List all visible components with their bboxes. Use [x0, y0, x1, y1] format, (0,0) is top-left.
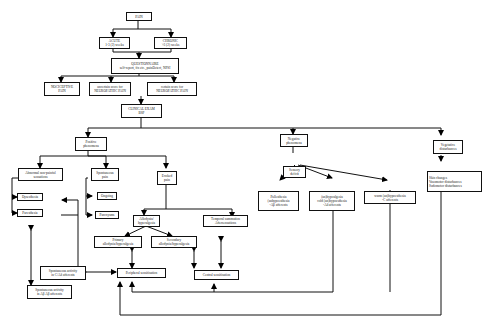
node-pallesthesia: Pallesthesia (anhypoesthesia -Aβ afferen…: [258, 191, 299, 211]
node-negative-phenomena: Negative phenomena: [280, 134, 308, 147]
node-clinical-exam: CLINICAL EXAM BSP: [121, 104, 162, 118]
node-pain: PAIN: [126, 12, 152, 21]
node-paroxysms: Paroxysms: [95, 211, 119, 219]
node-positive-phenomena: Positive phenomena: [75, 137, 107, 151]
node-skin-changes: Skin changes Vasomotor disturbances Sudo…: [427, 171, 482, 192]
node-evoked-pain: Evoked pain: [157, 171, 177, 185]
node-questionnaire: QUESTIONNAIRE self-report, fix etc., pai…: [111, 58, 179, 74]
node-neuropathic-uncertain: uncertain score for NEUROPATHIC PAIN: [89, 82, 131, 96]
flowchart-canvas: PAIN ACUTE 1-3 (2) weeks CHRONIC >3 (2) …: [0, 0, 490, 321]
node-secondary-allodynia: Secondary allodynia/hyperalgesia: [151, 236, 197, 248]
node-acute: ACUTE 1-3 (2) weeks: [99, 37, 130, 49]
node-nociceptive: NOCICEPTIVE PAIN: [44, 82, 80, 96]
node-chronic: CHRONIC >3 (2) weeks: [154, 37, 187, 49]
node-spont-activity-ab: Spontaneous activity in Aβ Aβ afferents: [27, 285, 72, 299]
node-paresthesia: Paresthesia: [17, 209, 43, 217]
node-cold-hypoesthesia: (an)hypoalgesia cold (an)hypoesthesia -A…: [309, 191, 355, 211]
node-abnormal-sensations: Abnormal non-painful sensations: [18, 168, 63, 181]
node-peripheral-sensitisation: Peripheral sensitisation: [117, 268, 166, 278]
node-neuropathic-certain: certain score for NEUROPATHIC PAIN: [147, 82, 197, 96]
node-spontaneous-pain: Spontaneous pain: [91, 168, 119, 181]
node-primary-allodynia: Primary allodynia/hyperalgesia: [94, 236, 142, 248]
node-central-sensitisation: Central sensitisation: [194, 270, 239, 280]
node-temporal-summation: Temporal summation Aftersensations: [203, 215, 248, 227]
node-ongoing: Ongoing: [97, 192, 117, 200]
node-allodynia: Allodynia/ hyperalgesia: [133, 215, 160, 227]
node-warm-hypoesthesia: warm (an)hypoesthesia -C afferents: [364, 191, 416, 204]
node-dysesthesia: Dysesthesia: [17, 193, 43, 201]
node-vegetative-disturbances: Vegetative disturbances: [433, 140, 463, 154]
node-sensory-deficit: Sensory deficit: [283, 166, 306, 178]
node-spont-activity-c: Spontaneous activity in C/Aδ afferents: [40, 266, 86, 280]
